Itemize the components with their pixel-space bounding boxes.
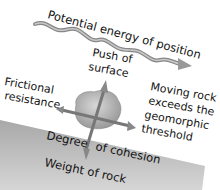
push-arrow-icon bbox=[100, 80, 108, 93]
downslope-arrow-icon bbox=[127, 121, 136, 131]
mass-movement-diagram: Potential energy of position Push of sur… bbox=[0, 0, 220, 190]
arrowhead-icon bbox=[178, 58, 192, 70]
